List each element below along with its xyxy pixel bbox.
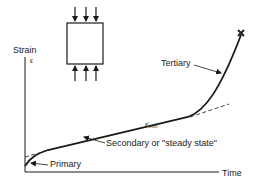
creep-diagram bbox=[0, 0, 263, 189]
min-strain-rate-label: ε̇min bbox=[145, 120, 157, 131]
y-axis-label: Strain bbox=[13, 45, 37, 55]
y-axis-symbol: ϵ bbox=[30, 56, 33, 66]
secondary-label: Secondary or "steady state" bbox=[106, 138, 217, 148]
tertiary-label: Tertiary bbox=[161, 58, 191, 68]
secondary-extrapolation-dashed bbox=[190, 104, 229, 117]
compression-arrows-top bbox=[75, 7, 96, 21]
strain-rate-subscript: min bbox=[149, 123, 158, 129]
primary-leader bbox=[31, 163, 48, 165]
tertiary-leader bbox=[194, 65, 221, 73]
compression-arrows-bottom bbox=[75, 66, 96, 81]
primary-label: Primary bbox=[50, 159, 81, 169]
specimen-diagram bbox=[67, 7, 103, 81]
x-axis-label: Time bbox=[222, 168, 242, 178]
specimen-box bbox=[67, 23, 103, 64]
